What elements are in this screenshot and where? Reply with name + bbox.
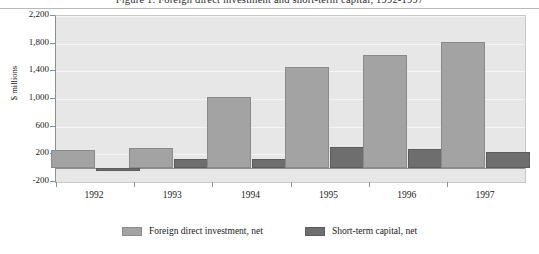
chart-legend: Foreign direct investment, net Short-ter…: [0, 226, 539, 236]
bar-stc-1997: [486, 152, 530, 168]
x-tick-mark: [212, 182, 213, 187]
legend-item-fdi: Foreign direct investment, net: [122, 226, 263, 236]
bar-fdi-1997: [441, 42, 485, 169]
y-tick-label: 600: [3, 120, 49, 130]
bar-fdi-1994: [207, 97, 251, 168]
legend-item-stc: Short-term capital, net: [305, 226, 417, 236]
x-tick-mark: [134, 182, 135, 187]
title-divider: [0, 8, 539, 9]
x-tick-label-1996: 1996: [377, 190, 437, 200]
x-tick-label-1993: 1993: [142, 190, 202, 200]
bar-fdi-1993: [129, 148, 173, 168]
bar-fdi-1995: [285, 67, 329, 168]
plot-area: [55, 15, 526, 183]
chart-title: Figure 1. Foreign direct investment and …: [0, 0, 539, 5]
x-tick-label-1992: 1992: [64, 190, 124, 200]
legend-swatch-icon-stc: [305, 227, 325, 236]
bar-chart: Figure 1. Foreign direct investment and …: [0, 0, 539, 254]
y-tick-label: 1,800: [3, 37, 49, 47]
bar-fdi-1996: [363, 55, 407, 168]
y-tick-label: 200: [3, 147, 49, 157]
legend-swatch-icon-fdi: [122, 227, 142, 236]
legend-label-fdi: Foreign direct investment, net: [149, 226, 263, 236]
bar-fdi-1992: [51, 150, 95, 168]
x-tick-label-1997: 1997: [455, 190, 515, 200]
y-tick-label: 2,200: [3, 9, 49, 19]
x-tick-mark: [56, 182, 57, 187]
x-tick-label-1994: 1994: [220, 190, 280, 200]
y-tick-label: 1,000: [3, 92, 49, 102]
bar-stc-1992: [96, 168, 140, 171]
x-tick-label-1995: 1995: [299, 190, 359, 200]
x-tick-mark: [447, 182, 448, 187]
y-axis-ticks: -2002006001,0001,4001,8002,200: [0, 0, 49, 254]
gridline: [56, 16, 525, 17]
y-tick-label: -200: [3, 175, 49, 185]
y-tick-label: 1,400: [3, 64, 49, 74]
legend-label-stc: Short-term capital, net: [332, 226, 417, 236]
x-tick-mark: [369, 182, 370, 187]
x-tick-mark: [291, 182, 292, 187]
